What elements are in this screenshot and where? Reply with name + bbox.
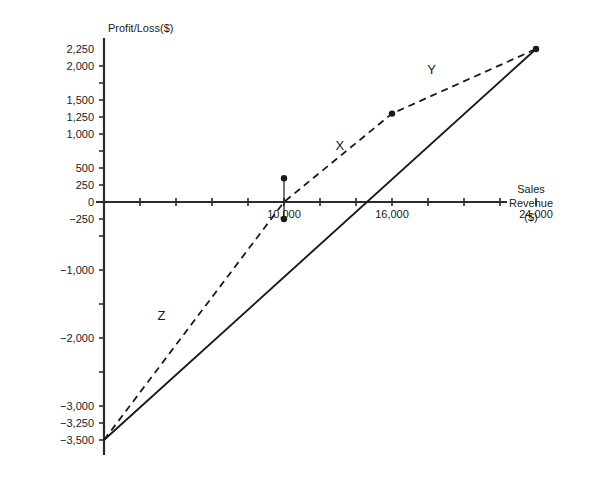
y-tick-label: −250 <box>69 213 94 225</box>
x-axis-title-line3: ($) <box>524 211 537 223</box>
x-tick-label: 16,000 <box>375 208 409 220</box>
y-tick-label: −3,250 <box>60 417 94 429</box>
y-tick-label: −1,000 <box>60 264 94 276</box>
y-axis-title: Profit/Loss($) <box>108 22 173 34</box>
data-point-marker <box>281 216 287 222</box>
data-point-marker <box>389 110 395 116</box>
y-tick-label: 2,000 <box>66 60 94 72</box>
data-point-marker <box>281 175 287 181</box>
y-tick-label: −3,000 <box>60 400 94 412</box>
y-tick-label: 0 <box>88 196 94 208</box>
x-axis-title-line1: Sales <box>517 183 545 195</box>
curve-label-z: Z <box>158 308 166 323</box>
chart-container: 2,2502,0001,5001,2501,0005002500−250−1,0… <box>0 0 601 480</box>
y-tick-label: 1,250 <box>66 111 94 123</box>
curve-label-x: X <box>335 138 344 153</box>
y-tick-label: −3,500 <box>60 434 94 446</box>
x-axis-title-line2: Revenue <box>509 197 553 209</box>
y-tick-label: 500 <box>76 162 94 174</box>
y-tick-label: 250 <box>76 179 94 191</box>
y-tick-label: 1,000 <box>66 128 94 140</box>
y-tick-label: 2,250 <box>66 43 94 55</box>
data-point-marker <box>533 46 539 52</box>
y-tick-label: 1,500 <box>66 94 94 106</box>
profit-loss-chart: 2,2502,0001,5001,2501,0005002500−250−1,0… <box>0 0 601 480</box>
curve-label-y: Y <box>427 62 436 77</box>
y-tick-label: −2,000 <box>60 332 94 344</box>
